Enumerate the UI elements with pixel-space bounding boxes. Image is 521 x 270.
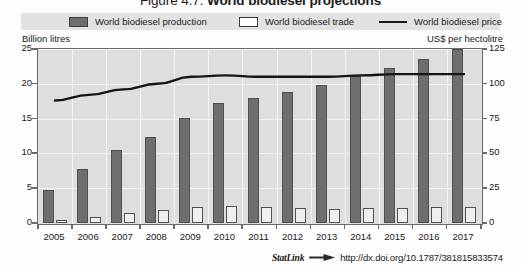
figure-title: Figure 4.7. World biodiesel projections (0, 0, 521, 8)
y-axis-left-tick-label: 0 (6, 217, 32, 227)
x-axis-tick-mark (412, 225, 414, 229)
x-axis-tick-mark (105, 225, 107, 229)
x-axis-tick-mark (344, 225, 346, 229)
x-axis-tick-mark (276, 225, 278, 229)
y-axis-right-tick-mark (482, 152, 487, 154)
y-axis-left-tick-mark (32, 83, 37, 85)
y-axis-right-tick-mark (482, 118, 487, 120)
y-axis-left-tick-label: 25 (6, 43, 32, 53)
y-axis-left-tick-label: 5 (6, 182, 32, 192)
x-axis-tick-mark (139, 225, 141, 229)
y-axis-right-tick-mark (482, 83, 487, 85)
x-axis-tick-mark (378, 225, 380, 229)
legend-item-trade: World biodiesel trade (239, 13, 354, 30)
y-axis-right-tick-mark (482, 48, 487, 50)
statlink-label: StatLink (272, 253, 304, 263)
x-axis-tick-mark (241, 225, 243, 229)
y-axis-right-tick-label: 75 (489, 113, 519, 123)
legend-swatch-production-icon (69, 17, 88, 27)
figure-title-text: World biodiesel projections (207, 0, 381, 8)
legend-swatch-price-icon (379, 21, 407, 23)
x-axis-tick-mark (173, 225, 175, 229)
y-axis-left-tick-mark (32, 118, 37, 120)
statlink-url[interactable]: http://dx.doi.org/10.1787/381815833574 (340, 252, 503, 263)
x-axis-tick-mark (310, 225, 312, 229)
legend-label-price: World biodiesel price (414, 16, 502, 27)
x-axis-tick-mark (480, 225, 482, 229)
y-axis-right-tick-mark (482, 187, 487, 189)
statlink-arrow-icon (309, 254, 335, 261)
chart-legend: World biodiesel production World biodies… (21, 13, 500, 30)
x-axis-tick-mark (37, 225, 39, 229)
y-axis-right-tick-label: 100 (489, 78, 519, 88)
y-axis-right-tick-label: 125 (489, 43, 519, 53)
y-axis-right-tick-label: 0 (489, 217, 519, 227)
legend-item-production: World biodiesel production (69, 13, 207, 30)
y-axis-right-tick-label: 50 (489, 147, 519, 157)
y-axis-right-tick-label: 25 (489, 182, 519, 192)
y-axis-left-tick-mark (32, 48, 37, 50)
price-line-layer (38, 49, 482, 224)
y-axis-right-tick-mark (482, 222, 487, 224)
figure-number: Figure 4.7. (140, 0, 203, 8)
x-axis-tick-mark (207, 225, 209, 229)
legend-swatch-trade-icon (239, 17, 258, 27)
y-axis-left-tick-mark (32, 187, 37, 189)
plot-area (37, 48, 483, 225)
legend-label-trade: World biodiesel trade (265, 16, 354, 27)
x-axis-tick-mark (71, 225, 73, 229)
statlink-row: StatLink http://dx.doi.org/10.1787/38181… (272, 252, 503, 263)
y-axis-left-tick-label: 15 (6, 113, 32, 123)
x-axis-tick-mark (446, 225, 448, 229)
x-axis-tick-label: 2017 (443, 232, 483, 242)
y-axis-left-tick-mark (32, 222, 37, 224)
legend-item-price: World biodiesel price (379, 13, 502, 30)
y-axis-left-tick-mark (32, 152, 37, 154)
y-axis-left-tick-label: 20 (6, 78, 32, 88)
y-axis-left-tick-label: 10 (6, 147, 32, 157)
legend-label-production: World biodiesel production (95, 16, 207, 27)
